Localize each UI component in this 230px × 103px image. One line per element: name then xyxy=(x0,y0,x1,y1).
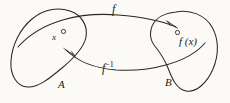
function-mapping-diagram: f f−1 x f (x) A B xyxy=(0,0,230,103)
set-b-label: B xyxy=(165,77,172,88)
set-b-boundary xyxy=(150,11,217,91)
inverse-arrowhead xyxy=(64,48,76,56)
set-a-boundary xyxy=(11,9,86,87)
diagram-canvas xyxy=(0,0,230,103)
point-x-marker xyxy=(61,29,65,33)
inverse-map-label: f−1 xyxy=(102,62,114,74)
set-a-label: A xyxy=(58,79,65,90)
point-x-label: x xyxy=(52,33,56,42)
inverse-map-label-exponent: −1 xyxy=(105,60,114,69)
point-fx-marker xyxy=(175,30,179,34)
forward-map-label: f xyxy=(112,3,115,15)
point-fx-label: f (x) xyxy=(179,36,197,47)
inverse-arrow-curve xyxy=(66,43,205,70)
